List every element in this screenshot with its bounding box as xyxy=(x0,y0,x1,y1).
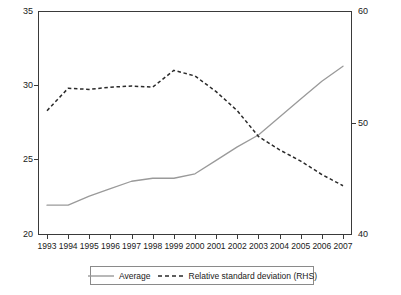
legend-dashed-line-icon xyxy=(157,272,185,280)
x-axis-tickmark xyxy=(153,235,154,239)
x-axis-tickmark xyxy=(301,235,302,239)
x-axis-tickmark xyxy=(237,235,238,239)
x-axis-tickmark xyxy=(195,235,196,239)
x-axis-tickmark xyxy=(216,235,217,239)
x-axis-labels: 1993199419951996199719981999200020012002… xyxy=(38,241,352,255)
chart-legend: Average Relative standard deviation (RHS… xyxy=(90,266,314,285)
y-axis-tick-label: 20 xyxy=(3,230,33,239)
y-axis-tick-label: 25 xyxy=(3,155,33,164)
x-axis-tickmark xyxy=(343,235,344,239)
y2-axis-tick-label: 60 xyxy=(358,7,398,16)
y2-axis-tick-label: 40 xyxy=(358,230,398,239)
legend-solid-line-icon xyxy=(87,272,115,280)
series-line-relative-standard-deviation xyxy=(47,70,343,185)
y2-axis-tickmark xyxy=(352,123,356,124)
x-axis-tickmark xyxy=(258,235,259,239)
x-axis-tickmark xyxy=(132,235,133,239)
x-axis-tickmark xyxy=(47,235,48,239)
legend-entry-average: Average xyxy=(87,271,151,281)
x-axis-tickmark xyxy=(280,235,281,239)
series-line-average xyxy=(47,66,343,205)
y-axis-tick-label: 35 xyxy=(3,7,33,16)
x-axis-tickmark xyxy=(322,235,323,239)
y-axis-tick-label: 30 xyxy=(3,81,33,90)
x-axis-tick-label: 2007 xyxy=(330,241,356,251)
legend-label: Average xyxy=(119,271,151,281)
x-axis-tickmark xyxy=(68,235,69,239)
x-axis-tickmark xyxy=(174,235,175,239)
legend-entry-relative-standard-deviation: Relative standard deviation (RHS) xyxy=(157,271,318,281)
x-axis-tickmark xyxy=(89,235,90,239)
chart-container: 35 30 25 20 60 50 40 1993199419951996199… xyxy=(0,0,401,295)
x-axis-tickmark xyxy=(110,235,111,239)
series-layer xyxy=(38,11,352,235)
y2-axis-tick-label: 50 xyxy=(358,119,398,128)
legend-label: Relative standard deviation (RHS) xyxy=(189,271,318,281)
